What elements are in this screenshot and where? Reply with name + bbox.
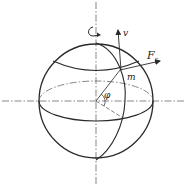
sphere-diagram: v Fc m φ — [0, 0, 188, 192]
angle-label: φ — [104, 90, 111, 100]
mass-label: m — [127, 72, 136, 82]
meridian — [96, 43, 125, 160]
velocity-label: v — [123, 28, 128, 38]
force-label-sub: c — [155, 55, 159, 62]
force-label: Fc — [146, 49, 159, 62]
force-label-main: F — [146, 49, 155, 62]
rotation-arrow-icon — [89, 27, 102, 37]
projection-line — [96, 101, 123, 118]
